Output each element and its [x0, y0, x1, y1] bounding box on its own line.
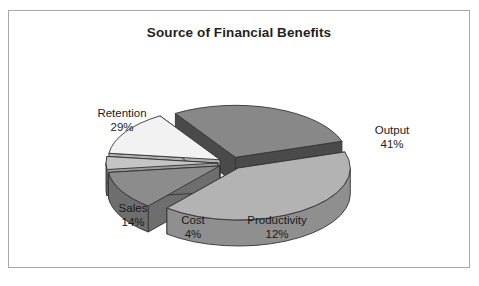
pie-label-retention-name: Retention	[83, 107, 161, 121]
pie-label-sales: Sales 14%	[107, 202, 159, 229]
pie-label-productivity-percent: 12%	[231, 228, 323, 242]
pie-label-retention-percent: 29%	[83, 121, 161, 135]
pie-label-cost-name: Cost	[167, 214, 219, 228]
pie-label-output: Output 41%	[357, 124, 427, 151]
pie-label-cost-percent: 4%	[167, 228, 219, 242]
pie-label-sales-percent: 14%	[107, 216, 159, 230]
pie-label-retention: Retention 29%	[83, 107, 161, 134]
pie-label-sales-name: Sales	[107, 202, 159, 216]
pie-label-productivity-name: Productivity	[231, 214, 323, 228]
pie-label-cost: Cost 4%	[167, 214, 219, 241]
chart-frame: Source of Financial Benefits Retention 2…	[8, 10, 470, 268]
pie-label-productivity: Productivity 12%	[231, 214, 323, 241]
pie-label-output-percent: 41%	[357, 138, 427, 152]
pie-label-output-name: Output	[357, 124, 427, 138]
